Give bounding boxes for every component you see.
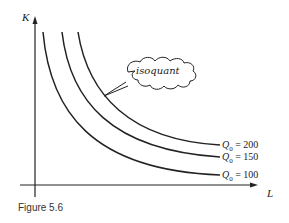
figure-caption: Figure 5.6	[18, 202, 63, 213]
x-axis-label: L	[267, 187, 273, 199]
x-axis-arrow-icon	[250, 183, 258, 188]
y-axis-label: K	[22, 11, 29, 23]
isoquant-curve-200	[78, 32, 220, 145]
curve-label-150: Q0 = 150	[222, 151, 258, 165]
y-axis-arrow-icon	[33, 16, 38, 24]
isoquant-diagram	[0, 0, 289, 223]
callout-pointer	[104, 82, 126, 96]
callout-pointer-2	[104, 86, 128, 96]
isoquant-curve-150	[62, 32, 220, 157]
curve-label-100: Q0 = 100	[222, 169, 258, 183]
callout-label: isoquant	[136, 65, 180, 76]
